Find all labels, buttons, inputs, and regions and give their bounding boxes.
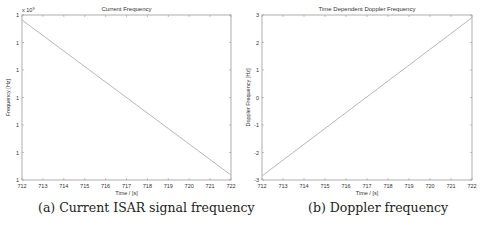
y-tick-label: -3: [254, 177, 259, 183]
x-tick-label: 721: [206, 183, 215, 189]
x-tick-label: 719: [404, 183, 413, 189]
y-tick-label: -2: [254, 150, 259, 156]
x-axis-label: Time / [s]: [115, 190, 138, 196]
x-tick-label: 718: [383, 183, 392, 189]
y-axis-label: Frequency [Hz]: [5, 78, 11, 116]
x-tick-label: 722: [467, 183, 476, 189]
current-frequency-panel: Current Frequency71271371471571671771871…: [0, 0, 243, 226]
x-tick-label: 712: [17, 183, 26, 189]
x-tick-label: 722: [226, 183, 235, 189]
y-tick-label: 1: [16, 177, 19, 183]
y-tick-label: 2: [256, 40, 259, 46]
y-exponent-label: x 109: [22, 6, 35, 14]
current-frequency-chart: Current Frequency71271371471571671771871…: [0, 0, 243, 200]
x-tick-label: 716: [341, 183, 350, 189]
x-tick-label: 714: [299, 183, 308, 189]
x-tick-label: 721: [446, 183, 455, 189]
y-tick-label: 0: [256, 95, 259, 101]
x-tick-label: 718: [143, 183, 152, 189]
x-tick-label: 712: [257, 183, 266, 189]
x-tick-label: 716: [101, 183, 110, 189]
y-tick-label: 1: [16, 122, 19, 128]
chart-title: Current Frequency: [101, 6, 151, 12]
x-tick-label: 717: [362, 183, 371, 189]
y-tick-label: 1: [16, 95, 19, 101]
y-tick-label: 1: [16, 150, 19, 156]
x-tick-label: 713: [278, 183, 287, 189]
y-tick-label: 1: [16, 67, 19, 73]
doppler-frequency-panel: Time Dependent Doppler Frequency71271371…: [243, 0, 487, 226]
chart-title: Time Dependent Doppler Frequency: [319, 6, 416, 12]
x-tick-label: 720: [185, 183, 194, 189]
doppler-frequency-chart: Time Dependent Doppler Frequency71271371…: [243, 0, 487, 200]
x-tick-label: 715: [80, 183, 89, 189]
y-tick-label: 1: [256, 67, 259, 73]
x-tick-label: 719: [164, 183, 173, 189]
y-tick-label: 3: [256, 12, 259, 18]
caption-a: (a) Current ISAR signal frequency: [38, 200, 255, 215]
x-tick-label: 720: [425, 183, 434, 189]
y-tick-label: 1: [16, 40, 19, 46]
plot-area: [262, 15, 472, 180]
caption-b: (b) Doppler frequency: [308, 200, 448, 215]
x-tick-label: 713: [38, 183, 47, 189]
y-tick-label: -1: [254, 122, 259, 128]
y-axis-label: Doppler Frequency [Hz]: [245, 68, 251, 127]
x-tick-label: 715: [320, 183, 329, 189]
y-tick-label: 1: [16, 12, 19, 18]
x-axis-label: Time / [s]: [356, 190, 379, 196]
x-tick-label: 714: [59, 183, 68, 189]
x-tick-label: 717: [122, 183, 131, 189]
